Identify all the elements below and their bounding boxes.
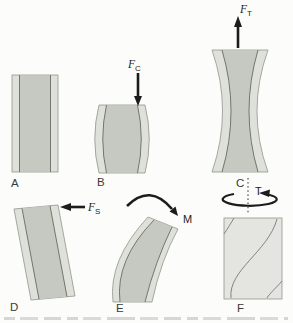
column-inner-band — [20, 76, 51, 172]
force-subscript: C — [135, 64, 141, 73]
column-twisted-body — [224, 218, 282, 299]
panel-letter-f: F — [237, 302, 244, 314]
force-label-ft: FT — [239, 3, 252, 18]
panel-letter-b: B — [97, 176, 105, 188]
cropped-caption-text — [4, 316, 288, 323]
tension-arrow-head-icon — [234, 16, 242, 27]
panel-bending: M E — [112, 195, 192, 314]
force-label-fs: FS — [87, 201, 100, 216]
force-subscript: T — [247, 9, 252, 18]
force-label-fc: FC — [127, 58, 141, 73]
bending-moment-arrow — [127, 195, 172, 209]
shear-arrow-head-icon — [60, 203, 71, 211]
panel-shear: FS D — [10, 201, 100, 313]
torque-label-t: T — [255, 185, 262, 197]
panel-torsion: T F — [223, 178, 282, 314]
stress-types-figure: A FC B FT C — [0, 0, 293, 323]
force-subscript: S — [95, 207, 100, 216]
panel-letter-e: E — [116, 302, 124, 314]
figure-canvas: A FC B FT C — [0, 0, 293, 323]
panel-letter-d: D — [10, 301, 18, 313]
panel-letter-a: A — [11, 177, 19, 189]
moment-label-m: M — [183, 213, 192, 225]
panel-undeformed: A — [11, 75, 58, 189]
panel-letter-c: C — [236, 177, 244, 189]
panel-compression: FC B — [95, 58, 150, 188]
column-inner-band — [103, 106, 142, 173]
panel-tension: FT C — [212, 3, 268, 189]
compression-arrow-head-icon — [134, 96, 142, 106]
